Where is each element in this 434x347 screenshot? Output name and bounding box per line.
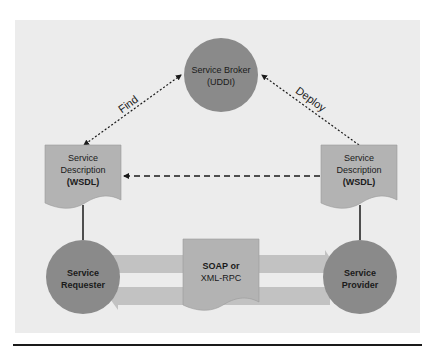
bottom-rule (13, 344, 422, 346)
provider-label-line2: Provider (342, 280, 379, 290)
protocol-line1: SOAP or (203, 261, 240, 271)
service-provider-node: Service Provider (323, 240, 397, 314)
provider-label-line1: Service (344, 268, 376, 278)
wsdl-right-line3: (WSDL) (343, 177, 376, 187)
wsdl-right-line2: Description (336, 165, 381, 175)
wsdl-left-line2: Description (60, 165, 105, 175)
broker-label-line1: Service Broker (191, 65, 250, 75)
wsdl-right-line1: Service (344, 153, 374, 163)
protocol-line2: XML-RPC (201, 273, 242, 283)
wsdl-left-line1: Service (68, 153, 98, 163)
service-requester-node: Service Requester (46, 240, 120, 314)
broker-label-line2: (UDDI) (207, 77, 235, 87)
service-broker-node: Service Broker (UDDI) (184, 38, 258, 112)
soa-diagram: Find Deploy Service Broker (UDDI) Servic… (0, 0, 434, 347)
wsdl-left-line3: (WSDL) (67, 177, 100, 187)
requester-label-line2: Requester (61, 280, 106, 290)
requester-label-line1: Service (67, 268, 99, 278)
